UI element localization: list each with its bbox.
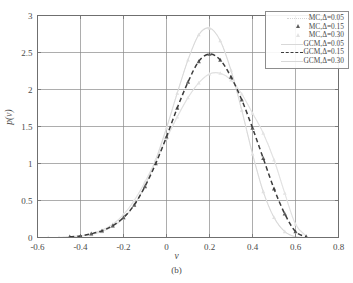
x-tick-label: 0.4 <box>247 242 258 252</box>
legend-swatch-mc-030 <box>287 31 309 39</box>
legend-swatch-mc-005 <box>287 14 309 22</box>
y-tick-label: 0.5 <box>0 196 33 206</box>
x-tick-label: 0.6 <box>290 242 301 252</box>
chart-legend: MC,Δ=0.05 MC,Δ=0.15 MC,Δ=0.30 GCM,Δ=0.05… <box>265 11 349 69</box>
legend-swatch-gcm-015 <box>281 49 303 57</box>
y-axis-label: p(v) <box>4 109 14 124</box>
legend-label-gcm-030: GCM,Δ=0.30 <box>303 57 346 66</box>
x-tick-label: 0.8 <box>333 242 344 252</box>
figure-container: -0.6-0.4-0.200.20.40.60.800.511.522.53 p… <box>0 0 353 283</box>
x-axis-label: v <box>0 251 353 261</box>
y-tick-label: 3 <box>0 11 33 21</box>
legend-swatch-mc-015 <box>287 23 309 31</box>
legend-swatch-gcm-030 <box>281 57 303 65</box>
x-tick-label: -0.4 <box>73 242 87 252</box>
y-tick-label: 0 <box>0 233 33 243</box>
figure-caption: (b) <box>0 265 353 275</box>
y-tick-label: 1 <box>0 159 33 169</box>
x-tick-label: -0.2 <box>116 242 130 252</box>
legend-swatch-gcm-005 <box>281 40 303 48</box>
x-tick-label: -0.6 <box>30 242 44 252</box>
x-tick-label: 0 <box>164 242 169 252</box>
x-tick-label: 0.2 <box>204 242 215 252</box>
series-mc-0-15 <box>68 52 309 239</box>
y-tick-label: 2.5 <box>0 48 33 58</box>
legend-item: GCM,Δ=0.30 <box>266 57 346 66</box>
y-tick-label: 2 <box>0 85 33 95</box>
